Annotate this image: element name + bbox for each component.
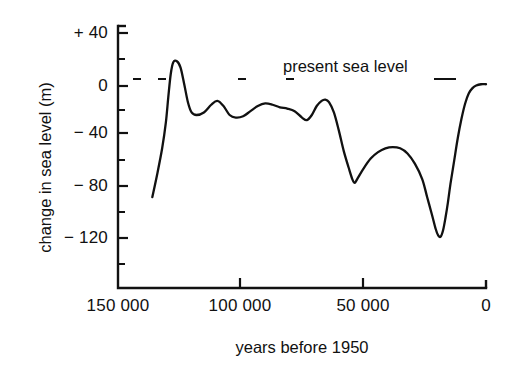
- x-tick-label-100000: 100 000: [209, 296, 272, 316]
- y-axis-major-ticks: [118, 33, 128, 238]
- present-sea-level-annotation: present sea level: [283, 57, 408, 76]
- sea-level-curve: [152, 61, 486, 237]
- x-tick-label-150000: 150 000: [87, 296, 150, 316]
- x-tick-label-0: 0: [481, 296, 491, 316]
- y-axis-title: change in sea level (m): [36, 53, 55, 283]
- x-axis-title: years before 1950: [118, 338, 486, 357]
- x-tick-label-50000: 50 000: [336, 296, 389, 316]
- sea-level-chart-figure: + 40 0 − 40 − 80 − 120 150 000 100 000 5…: [0, 0, 519, 380]
- y-tick-label-40: + 40: [36, 23, 108, 43]
- x-axis-major-ticks: [240, 278, 363, 288]
